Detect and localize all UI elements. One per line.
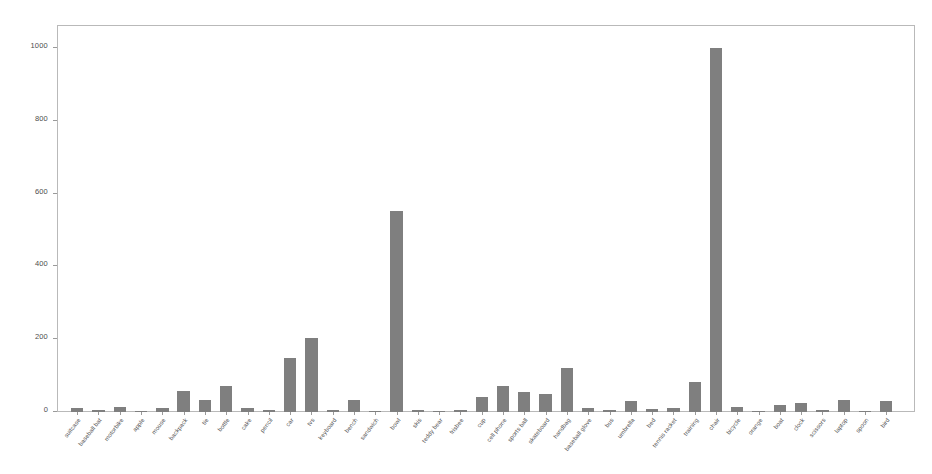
bar[interactable] <box>689 382 701 412</box>
x-axis-tick-mark <box>886 412 887 415</box>
x-axis-tick-label: suitcase <box>63 417 82 439</box>
x-axis-tick-mark <box>652 412 653 415</box>
bar-slot <box>327 26 339 412</box>
bar-slot <box>774 26 786 412</box>
bar[interactable] <box>625 401 637 412</box>
x-axis-tick-mark <box>248 412 249 415</box>
x-axis-tick-mark <box>503 412 504 415</box>
x-axis-tick-mark <box>290 412 291 415</box>
bar[interactable] <box>561 368 573 412</box>
x-axis-tick-mark <box>546 412 547 415</box>
x-axis-tick-label: skateboard <box>527 417 551 445</box>
x-axis-tick-mark <box>673 412 674 415</box>
x-axis-tick-mark <box>716 412 717 415</box>
x-axis-tick-label: chair <box>708 417 721 431</box>
bar-slot <box>369 26 381 412</box>
x-axis-tick-mark <box>588 412 589 415</box>
x-axis-tick-label: scissors <box>809 417 828 438</box>
x-axis-tick-label: keyboard <box>317 417 337 441</box>
bar-slot <box>518 26 530 412</box>
bar-slot <box>539 26 551 412</box>
x-axis-tick-mark <box>524 412 525 415</box>
x-axis-tick-label: skis <box>411 417 422 429</box>
x-axis-tick-label: teddy bear <box>421 417 444 444</box>
x-axis-tick-mark <box>822 412 823 415</box>
bar-slot <box>92 26 104 412</box>
bar-slot <box>859 26 871 412</box>
x-axis-tick-mark <box>141 412 142 415</box>
bar-slot <box>348 26 360 412</box>
x-axis-tick-label: frisbee <box>449 417 465 435</box>
bar-slot <box>795 26 807 412</box>
x-axis-tick-label: orange <box>747 417 764 436</box>
x-axis-tick-mark <box>460 412 461 415</box>
bar-slot <box>625 26 637 412</box>
bar[interactable] <box>518 392 530 412</box>
bar[interactable] <box>539 394 551 412</box>
y-axis-tick-label: 400 <box>35 259 48 268</box>
x-axis-tick-label: bed <box>646 417 657 429</box>
bar-slot <box>476 26 488 412</box>
bars-layer <box>58 26 914 412</box>
x-axis-tick-label: sports ball <box>507 417 529 443</box>
bar[interactable] <box>348 400 360 412</box>
bar[interactable] <box>305 338 317 412</box>
x-axis-tick-label: bicycle <box>726 417 742 436</box>
bar[interactable] <box>774 405 786 412</box>
bar[interactable] <box>710 48 722 412</box>
bar-slot <box>156 26 168 412</box>
bar-slot <box>412 26 424 412</box>
bar[interactable] <box>177 391 189 412</box>
x-axis-tick-label: spoon <box>855 417 870 434</box>
bar[interactable] <box>220 386 232 412</box>
x-axis-tick-label: bench <box>344 417 359 434</box>
y-axis: 02004006008001000 <box>0 25 57 412</box>
x-axis-tick-mark <box>759 412 760 415</box>
x-axis-tick-mark <box>311 412 312 415</box>
bar[interactable] <box>476 397 488 412</box>
y-axis-tick-mark <box>53 265 57 266</box>
y-axis-tick-label: 600 <box>35 187 48 196</box>
bar-slot <box>603 26 615 412</box>
x-axis-tick-mark <box>801 412 802 415</box>
bar-slot <box>582 26 594 412</box>
bar[interactable] <box>390 211 402 412</box>
bar[interactable] <box>880 401 892 412</box>
x-axis-tick-mark <box>567 412 568 415</box>
x-axis-tick-mark <box>397 412 398 415</box>
bar-slot <box>880 26 892 412</box>
x-axis-tick-label: training <box>682 417 699 437</box>
bar-slot <box>390 26 402 412</box>
x-axis-tick-label: mouse <box>151 417 167 435</box>
bar[interactable] <box>795 403 807 412</box>
bar[interactable] <box>838 400 850 412</box>
x-axis-tick-label: car <box>285 417 295 428</box>
bar-slot <box>731 26 743 412</box>
y-axis-tick-label: 0 <box>44 405 48 414</box>
y-axis-tick-label: 1000 <box>31 41 49 50</box>
x-axis-tick-label: motorbike <box>103 417 125 442</box>
bar[interactable] <box>284 358 296 412</box>
bar-slot <box>433 26 445 412</box>
x-axis-tick-mark <box>631 412 632 415</box>
bar-slot <box>646 26 658 412</box>
bar[interactable] <box>497 386 509 412</box>
bar-slot <box>114 26 126 412</box>
bar-slot <box>710 26 722 412</box>
x-axis-tick-label: tvs <box>306 417 316 427</box>
x-axis-tick-label: bowl <box>389 417 402 431</box>
bar[interactable] <box>199 400 211 412</box>
bar-slot <box>71 26 83 412</box>
x-axis-tick-mark <box>737 412 738 415</box>
bar-slot <box>816 26 828 412</box>
bar-slot <box>241 26 253 412</box>
x-axis-tick-label: handbag <box>552 417 572 440</box>
bar-slot <box>263 26 275 412</box>
x-axis-tick-mark <box>120 412 121 415</box>
x-axis-tick-mark <box>418 412 419 415</box>
bar-slot <box>667 26 679 412</box>
y-axis-tick-mark <box>53 338 57 339</box>
x-axis-tick-mark <box>482 412 483 415</box>
bar-slot <box>284 26 296 412</box>
x-axis-tick-mark <box>184 412 185 415</box>
